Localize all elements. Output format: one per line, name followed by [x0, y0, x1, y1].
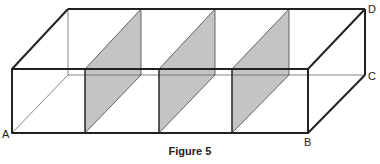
shaded-plane-2 [159, 9, 215, 133]
bottom-right-depth-edge [308, 75, 365, 133]
figure-caption: Figure 5 [0, 145, 380, 157]
shaded-plane-3 [232, 9, 289, 133]
vertex-label-c: C [368, 70, 376, 82]
shaded-planes [85, 9, 289, 133]
vertex-label-d: D [368, 3, 376, 15]
box-diagram: A B C D [0, 0, 380, 164]
bottom-left-depth-edge [12, 75, 68, 133]
top-right-depth-edge [308, 9, 365, 69]
vertex-label-a: A [2, 128, 10, 140]
top-left-depth-edge [12, 9, 68, 69]
shaded-plane-1 [85, 9, 141, 133]
